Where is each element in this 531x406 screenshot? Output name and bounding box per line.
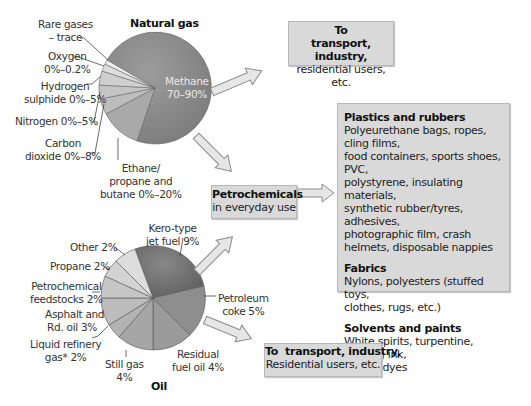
arrow-petrochemicals-to-uses	[298, 184, 334, 202]
petrochemicals-box: Petrochemicals in everyday use	[211, 185, 297, 219]
section-title-plastics: Plastics and rubbers	[344, 111, 503, 124]
still-gas-line1: Still gas	[105, 358, 144, 371]
fabrics-line: clothes, rugs, etc.)	[344, 301, 503, 314]
rare-gases-line1: Rare gases	[38, 18, 93, 31]
still-gas-label: Still gas 4%	[105, 358, 144, 384]
asphalt-line1: Asphalt and	[45, 308, 97, 321]
arrow-gas-to-petrochemicals	[190, 130, 238, 178]
ethane-line3: butane 0%–20%	[100, 188, 182, 201]
co2-line2: dioxide 0%–8%	[25, 150, 101, 163]
oil-title: Oil	[151, 380, 167, 393]
oxygen-line2: 0%–0.2%	[44, 63, 90, 76]
asphalt-label: Asphalt and Rd. oil 3%	[45, 308, 97, 334]
oxygen-label: Oxygen 0%–0.2%	[44, 50, 90, 76]
plastics-line: Polyeurethane bags, ropes, cling films,	[344, 124, 503, 150]
transport-box-bottom: To transport, industry, Residential user…	[264, 343, 382, 377]
lrg-line2: gas* 2%	[30, 351, 101, 364]
fabrics-line: Nylons, polyesters (stuffed toys,	[344, 275, 503, 301]
petrochemicals-title: Petrochemicals	[212, 188, 296, 201]
methane-value: 70–90%	[165, 88, 209, 101]
residual-line2: fuel oil 4%	[172, 361, 224, 374]
propane-label: Propane 2%	[50, 260, 110, 273]
plastics-line: photographic film, crash	[344, 228, 503, 241]
residual-fuel-oil-label: Residual fuel oil 4%	[172, 348, 224, 374]
transport-box-top-line2: transport, industry,	[289, 37, 393, 63]
h2s-line2: sulphide 0%–5%	[24, 93, 106, 106]
co2-line1: Carbon	[25, 137, 101, 150]
coke-line1: Petroleum	[218, 292, 269, 305]
plastics-line: helmets, disposable nappies	[344, 241, 503, 254]
transport-box-bottom-line2: Residential users, etc.	[265, 358, 381, 371]
residual-line1: Residual	[172, 348, 224, 361]
section-title-solvents: Solvents and paints	[344, 322, 503, 335]
asphalt-line2: Rd. oil 3%	[45, 321, 97, 334]
petrochem-line2: feedstocks 2%	[30, 293, 103, 306]
h2s-line1: Hydrogen	[24, 80, 106, 93]
still-gas-line2: 4%	[105, 371, 144, 384]
carbon-dioxide-label: Carbon dioxide 0%–8%	[25, 137, 101, 163]
transport-box-top-line1: To	[289, 24, 393, 37]
kero-label: Kero-type jet fuel 9%	[146, 222, 199, 248]
liquid-refinery-gas-label: Liquid refinery gas* 2%	[30, 338, 101, 364]
plastics-line: polystyrene, insulating materials,	[344, 176, 503, 202]
ethane-line1: Ethane/	[100, 162, 182, 175]
transport-box-top: To transport, industry, residential user…	[288, 21, 394, 66]
methane-label: Methane 70–90%	[165, 75, 209, 101]
rare-gases-line2: – trace	[38, 31, 93, 44]
petrochemicals-subtitle: in everyday use	[212, 201, 296, 214]
natural-gas-title: Natural gas	[130, 17, 199, 30]
transport-box-bottom-line1: To transport, industry,	[265, 345, 381, 358]
kero-line1: Kero-type	[146, 222, 199, 235]
section-title-fabrics: Fabrics	[344, 262, 503, 275]
transport-box-top-line3: residential users, etc.	[289, 63, 393, 89]
hydrogen-sulphide-label: Hydrogen sulphide 0%–5%	[24, 80, 106, 106]
petrochem-line1: Petrochemical	[30, 280, 103, 293]
nitrogen-label: Nitrogen 0%–5%	[15, 115, 98, 128]
ethane-line2: propane and	[100, 175, 182, 188]
petrochemical-feedstocks-label: Petrochemical feedstocks 2%	[30, 280, 103, 306]
arrow-gas-to-transport	[208, 63, 265, 101]
petroleum-coke-label: Petroleum coke 5%	[218, 292, 269, 318]
plastics-line: synthetic rubber/tyres, adhesives,	[344, 202, 503, 228]
rare-gases-label: Rare gases – trace	[38, 18, 93, 44]
oil-pie	[101, 246, 205, 350]
plastics-line: food containers, sports shoes, PVC,	[344, 150, 503, 176]
kero-line2: jet fuel 9%	[146, 235, 199, 248]
methane-name: Methane	[165, 75, 209, 88]
lrg-line1: Liquid refinery	[30, 338, 101, 351]
coke-line2: coke 5%	[218, 305, 269, 318]
uses-box: Plastics and rubbers Polyeurethane bags,…	[337, 103, 510, 292]
oxygen-line1: Oxygen	[44, 50, 90, 63]
ethane-label: Ethane/ propane and butane 0%–20%	[100, 162, 182, 201]
other-label: Other 2%	[70, 241, 117, 254]
